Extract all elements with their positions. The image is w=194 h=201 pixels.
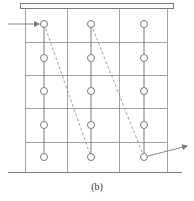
node-circle-icon <box>141 154 148 161</box>
node-circle-icon <box>141 88 148 95</box>
node-circle-icon <box>141 122 148 129</box>
figure-caption: (b) <box>0 181 194 192</box>
top-plate-rect <box>21 4 174 9</box>
dashed-diagonal-line <box>91 24 144 157</box>
top-plate <box>21 4 174 9</box>
node-circle-icon <box>41 88 48 95</box>
node-circle-icon <box>41 21 48 28</box>
node-circle-icon <box>41 122 48 129</box>
flow-arrows <box>8 24 187 156</box>
node-circle-icon <box>141 55 148 62</box>
node-circle-icon <box>41 154 48 161</box>
node-circle-icon <box>88 122 95 129</box>
node-circle-icon <box>88 154 95 161</box>
node-circle-icon <box>41 55 48 62</box>
node-circle-icon <box>88 88 95 95</box>
node-circle-icon <box>88 55 95 62</box>
node-circle-icon <box>141 21 148 28</box>
node-circles <box>41 21 148 161</box>
serpentine-flow-diagram <box>0 0 194 201</box>
node-circle-icon <box>88 21 95 28</box>
